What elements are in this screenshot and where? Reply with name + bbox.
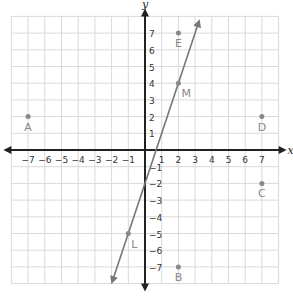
- point-label: B: [175, 271, 183, 284]
- x-tick-label: −3: [88, 155, 101, 165]
- y-tick-label: 6: [149, 46, 155, 56]
- y-tick-label: 7: [149, 29, 155, 39]
- y-axis-label: y: [141, 0, 149, 11]
- x-axis-label: x: [288, 144, 293, 157]
- point-label: A: [24, 121, 32, 134]
- x-tick-label: −4: [72, 155, 86, 165]
- y-tick-label: −5: [149, 230, 162, 240]
- x-tick-label: −6: [38, 155, 52, 165]
- point-label: M: [181, 87, 191, 100]
- y-tick-label: −2: [149, 179, 162, 189]
- line-lm: [110, 19, 201, 284]
- x-tick-label: 5: [226, 155, 232, 165]
- point-marker: [176, 31, 181, 36]
- y-tick-label: −3: [149, 196, 162, 206]
- point-label: L: [131, 238, 138, 251]
- point-marker: [259, 114, 264, 119]
- point-label: C: [258, 187, 266, 200]
- point-marker: [259, 181, 264, 186]
- axes: [3, 8, 286, 291]
- line-arrow-down-icon: [110, 275, 118, 284]
- x-tick-label: 7: [259, 155, 265, 165]
- arrow-left-icon: [3, 146, 11, 154]
- y-tick-label: −7: [149, 263, 162, 273]
- point-marker: [176, 264, 181, 269]
- y-tick-label: 4: [149, 79, 155, 89]
- y-tick-label: 1: [149, 129, 155, 139]
- arrow-right-icon: [279, 146, 287, 154]
- x-tick-label: −1: [122, 155, 135, 165]
- line-arrow-up-icon: [193, 19, 201, 28]
- x-tick-label: −7: [21, 155, 34, 165]
- line-segment: [113, 23, 199, 280]
- x-tick-label: −2: [105, 155, 118, 165]
- x-tick-label: −5: [55, 155, 68, 165]
- y-tick-label: 5: [149, 63, 155, 73]
- y-tick-label: −6: [149, 246, 163, 256]
- point-marker: [26, 114, 31, 119]
- x-tick-label: 6: [242, 155, 248, 165]
- arrow-down-icon: [141, 284, 149, 292]
- coordinate-plane: −7−6−5−4−3−2−112345677654321−1−2−3−4−5−6…: [0, 0, 293, 299]
- y-tick-label: 2: [149, 113, 155, 123]
- point-label: E: [175, 37, 182, 50]
- point-marker: [176, 81, 181, 86]
- x-tick-label: 2: [176, 155, 182, 165]
- point-label: D: [258, 121, 266, 134]
- y-tick-label: −4: [149, 213, 163, 223]
- x-tick-label: 4: [209, 155, 215, 165]
- point-marker: [126, 231, 131, 236]
- y-tick-label: 3: [149, 96, 155, 106]
- x-tick-label: 3: [192, 155, 198, 165]
